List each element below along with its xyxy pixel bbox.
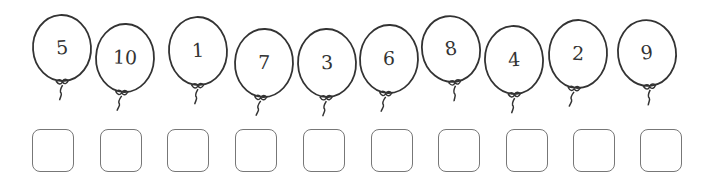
balloon: 8 [417, 11, 489, 105]
balloon-string-icon [59, 85, 64, 100]
balloon-string-icon [381, 97, 386, 112]
balloon: 3 [297, 28, 358, 117]
balloon-string-icon [117, 96, 122, 111]
answer-box[interactable] [371, 129, 413, 172]
balloon-number: 1 [191, 39, 204, 62]
balloon: 4 [483, 24, 547, 115]
balloon: 6 [358, 24, 419, 113]
answer-box[interactable] [438, 129, 480, 172]
balloon-number: 2 [571, 42, 584, 65]
balloon-string-icon [646, 90, 652, 105]
answer-box[interactable] [573, 129, 615, 172]
balloon: 5 [31, 13, 95, 102]
answer-box[interactable] [640, 129, 682, 172]
answer-box[interactable] [32, 129, 74, 172]
balloon-number: 4 [507, 48, 521, 71]
balloon-string-icon [511, 98, 516, 113]
answer-box[interactable] [167, 129, 209, 172]
balloon-worksheet: 51017368429 [0, 0, 713, 189]
balloon-string-icon [452, 86, 459, 101]
answer-box[interactable] [235, 129, 277, 172]
balloon-string-icon [569, 92, 574, 107]
balloon-string-icon [256, 101, 261, 116]
balloon-number: 10 [113, 46, 138, 69]
answer-box[interactable] [303, 129, 345, 172]
balloon: 10 [94, 23, 155, 112]
balloon-number: 3 [321, 51, 334, 73]
balloon-string-icon [194, 89, 199, 104]
balloon-string-icon [322, 101, 327, 116]
balloon-number: 7 [258, 51, 271, 73]
balloon-number: 5 [55, 36, 69, 59]
balloon-number: 6 [383, 47, 396, 69]
balloon: 1 [167, 16, 229, 106]
answer-box[interactable] [506, 129, 548, 172]
balloon: 7 [233, 28, 294, 117]
balloon: 9 [614, 16, 683, 108]
balloon: 2 [546, 19, 608, 109]
answer-box[interactable] [100, 129, 142, 172]
